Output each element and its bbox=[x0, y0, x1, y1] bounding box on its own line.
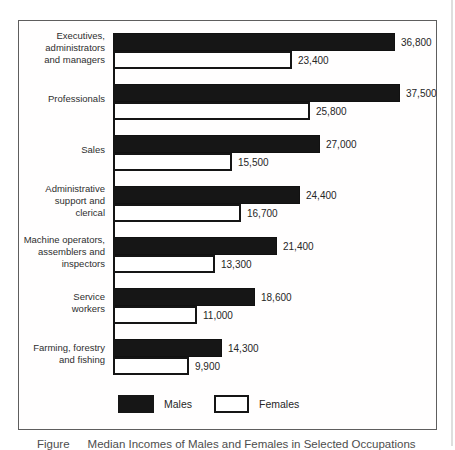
bar-group: Farming, forestryand fishing14,3009,900 bbox=[19, 339, 432, 375]
males-bar bbox=[113, 84, 400, 102]
females-value-label: 16,700 bbox=[247, 208, 278, 219]
females-value-label: 11,000 bbox=[203, 310, 233, 321]
category-label: Sales bbox=[19, 132, 113, 168]
bar-pair: 24,40016,700 bbox=[113, 186, 432, 222]
males-bar bbox=[113, 339, 222, 357]
category-label: Machine operators,assemblers andinspecto… bbox=[19, 234, 113, 270]
females-bar bbox=[113, 102, 310, 120]
baseline-axis bbox=[113, 33, 115, 375]
bar-pair: 36,80023,400 bbox=[113, 33, 432, 69]
legend-males-swatch bbox=[118, 395, 154, 413]
females-value-label: 13,300 bbox=[221, 259, 252, 270]
bar-group: Machine operators,assemblers andinspecto… bbox=[19, 237, 432, 273]
bar-pair: 27,00015,500 bbox=[113, 135, 432, 171]
males-value-label: 27,000 bbox=[326, 139, 357, 150]
bar-group: Sales27,00015,500 bbox=[19, 135, 432, 171]
males-value-label: 37,500 bbox=[406, 88, 437, 99]
bar-group: Executives,administratorsand managers36,… bbox=[19, 33, 432, 69]
bar-pair: 21,40013,300 bbox=[113, 237, 432, 273]
males-bar bbox=[113, 186, 300, 204]
bar-pair: 37,50025,800 bbox=[113, 84, 437, 120]
bar-pair: 14,3009,900 bbox=[113, 339, 432, 375]
legend: Males Females bbox=[118, 395, 299, 413]
category-label: Professionals bbox=[19, 81, 113, 117]
females-bar bbox=[113, 153, 232, 171]
bar-pair: 18,60011,000 bbox=[113, 288, 432, 324]
females-value-label: 15,500 bbox=[238, 157, 269, 168]
females-value-label: 25,800 bbox=[316, 106, 347, 117]
figure-caption-prefix: Figure bbox=[37, 438, 70, 450]
legend-males-label: Males bbox=[164, 398, 192, 410]
bar-group: Professionals37,50025,800 bbox=[19, 84, 432, 120]
bar-group: Administrativesupport andclerical24,4001… bbox=[19, 186, 432, 222]
females-bar bbox=[113, 204, 241, 222]
males-value-label: 18,600 bbox=[261, 292, 292, 303]
category-label: Serviceworkers bbox=[19, 285, 113, 321]
chart-panel: Executives,administratorsand managers36,… bbox=[18, 20, 437, 430]
females-bar bbox=[113, 357, 189, 375]
males-bar bbox=[113, 33, 395, 51]
males-value-label: 36,800 bbox=[401, 37, 432, 48]
legend-females-label: Females bbox=[259, 398, 299, 410]
males-value-label: 24,400 bbox=[306, 190, 337, 201]
figure-caption: FigureMedian Incomes of Males and Female… bbox=[37, 438, 416, 450]
females-value-label: 9,900 bbox=[195, 361, 220, 372]
females-value-label: 23,400 bbox=[298, 55, 329, 66]
males-value-label: 14,300 bbox=[228, 343, 259, 354]
males-bar bbox=[113, 288, 255, 306]
category-label: Administrativesupport andclerical bbox=[19, 183, 113, 219]
figure-caption-title: Median Incomes of Males and Females in S… bbox=[88, 438, 416, 450]
females-bar bbox=[113, 51, 292, 69]
males-bar bbox=[113, 135, 320, 153]
category-label: Executives,administratorsand managers bbox=[19, 30, 113, 66]
grouped-bar-chart: Executives,administratorsand managers36,… bbox=[19, 33, 432, 375]
legend-females-swatch bbox=[214, 395, 249, 413]
scan-edge-artifact bbox=[451, 0, 453, 446]
category-label: Farming, forestryand fishing bbox=[19, 336, 113, 372]
males-value-label: 21,400 bbox=[283, 241, 314, 252]
males-bar bbox=[113, 237, 277, 255]
bar-group: Serviceworkers18,60011,000 bbox=[19, 288, 432, 324]
females-bar bbox=[113, 306, 197, 324]
females-bar bbox=[113, 255, 215, 273]
